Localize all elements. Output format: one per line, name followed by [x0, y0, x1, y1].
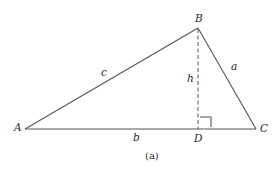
- triangle-diagram: A B C D c a b h (a): [0, 0, 279, 174]
- side-a-line: [198, 28, 256, 129]
- altitude-label-h: h: [187, 72, 194, 84]
- side-label-a: a: [231, 60, 237, 72]
- vertex-label-b: B: [194, 12, 203, 24]
- side-label-c: c: [101, 66, 107, 78]
- right-angle-marker: [200, 117, 211, 127]
- vertex-label-c: C: [260, 122, 268, 134]
- figure-caption: (a): [145, 150, 159, 161]
- diagram-svg: A B C D c a b h (a): [0, 0, 279, 174]
- side-label-b: b: [133, 131, 140, 143]
- side-c-line: [25, 28, 198, 129]
- vertex-label-a: A: [13, 121, 22, 133]
- vertex-label-d: D: [193, 132, 203, 144]
